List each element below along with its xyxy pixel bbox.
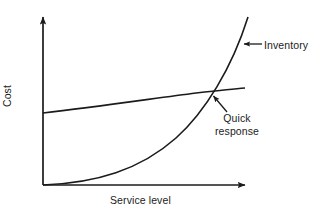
x-axis-label: Service level xyxy=(110,194,171,206)
quick-response-arrow-icon xyxy=(214,96,228,112)
y-axis-label: Cost xyxy=(1,93,13,107)
inventory-series-label: Inventory xyxy=(264,39,308,51)
quick-response-label-line1: Quick xyxy=(223,112,250,124)
quick-response-series-label: Quickresponse xyxy=(206,112,268,138)
quick-response-label-line2: response xyxy=(215,125,259,137)
chart-canvas xyxy=(0,0,324,220)
quick-response-cost-curve xyxy=(43,88,245,113)
cost-vs-service-level-chart: Cost Service level Inventory Quickrespon… xyxy=(0,0,324,220)
